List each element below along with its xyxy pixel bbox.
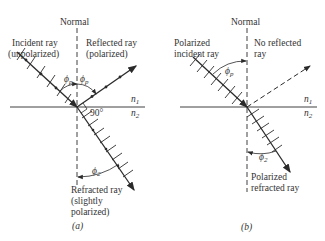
n2-label-a: n2 [131, 108, 139, 122]
reflected-ray-b-dashed [247, 66, 310, 107]
incident-label-b-line1: Polarized [174, 38, 210, 49]
reflected-label-a-line2: (polarized) [86, 49, 128, 60]
angle-label-incident-b: ϕp [225, 66, 233, 80]
n1-label-a: n1 [131, 94, 139, 108]
reflected-label-a-line1: Reflected ray [86, 38, 137, 49]
n2-label-b: n2 [304, 108, 312, 122]
reflected-label-b-line1: No reflected [254, 38, 301, 49]
angle-label-refracted-b: ϕ2 [259, 152, 267, 166]
angle-label-refracted-a: ϕ2 [92, 166, 100, 180]
refracted-polarization-ticks-a [82, 111, 133, 177]
caption-b: (b) [241, 222, 252, 233]
refracted-label-a-line1: Refracted ray [71, 185, 122, 196]
brewster-angle-diagram [0, 0, 325, 241]
incident-ray-b [193, 57, 247, 107]
incident-label-a-line1: Incident ray [12, 38, 58, 49]
angle-label-incident-a: ϕp [64, 74, 72, 88]
right-angle-label-a: 90° [90, 108, 103, 119]
incident-label-a-line2: (unpolarized) [8, 49, 59, 60]
caption-a: (a) [72, 221, 83, 232]
n1-label-b: n1 [304, 94, 312, 108]
right-angle-marker-a [81, 103, 87, 113]
refracted-label-a-line2: (slightly [71, 196, 103, 207]
refracted-ray-b [247, 107, 290, 172]
refracted-label-b-line1: Polarized [251, 172, 287, 183]
refracted-label-a-line3: polarized) [71, 207, 110, 218]
reflected-label-b-line2: ray [254, 49, 266, 60]
normal-label-a: Normal [60, 17, 89, 28]
refracted-label-b-line2: refracted ray [251, 183, 299, 194]
angle-label-reflected-a: ϕp [80, 74, 88, 88]
normal-label-b: Normal [231, 17, 260, 28]
incident-label-b-line2: incident ray [174, 49, 219, 60]
